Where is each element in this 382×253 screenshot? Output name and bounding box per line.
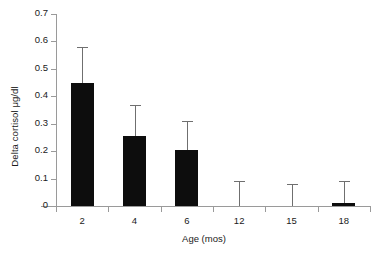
y-axis-tick-label: 0.7 xyxy=(35,7,48,18)
x-axis-tick-mark xyxy=(213,206,214,212)
y-axis-tick-mark xyxy=(51,69,56,70)
error-bar-cap xyxy=(339,181,350,182)
y-axis-tick-label: 0 xyxy=(43,199,48,210)
x-axis-tick-mark xyxy=(56,206,57,212)
y-axis-title-container: Delta cortisol μg/dl xyxy=(6,0,22,253)
x-axis-tick-label: 4 xyxy=(132,215,137,226)
error-bar-stem xyxy=(292,184,293,206)
error-bar-cap xyxy=(182,121,193,122)
x-axis-tick-label: 18 xyxy=(339,215,350,226)
x-axis-tick-mark xyxy=(265,206,266,212)
error-bar-stem xyxy=(239,181,240,206)
x-axis-tick-label: 2 xyxy=(80,215,85,226)
y-axis-tick-mark xyxy=(51,96,56,97)
x-axis-title: Age (mos) xyxy=(0,233,382,244)
error-bar-stem xyxy=(82,47,83,83)
y-axis-tick-mark xyxy=(51,151,56,152)
y-axis-tick-label: 0.5 xyxy=(35,62,48,73)
error-bar-cap xyxy=(77,47,88,48)
x-axis-tick-mark xyxy=(370,206,371,212)
y-axis-tick-label: 0.2 xyxy=(35,144,48,155)
error-bar-stem xyxy=(135,105,136,137)
y-axis-title: Delta cortisol μg/dl xyxy=(6,0,22,253)
x-axis-tick-label: 12 xyxy=(234,215,245,226)
x-axis-spine xyxy=(41,206,370,207)
y-axis-tick-label: 0.6 xyxy=(35,34,48,45)
error-bar-cap xyxy=(234,181,245,182)
bar xyxy=(71,83,94,206)
x-axis-tick-label: 15 xyxy=(286,215,297,226)
y-axis-tick-label: 0.4 xyxy=(35,89,48,100)
y-axis-tick-mark xyxy=(51,124,56,125)
x-axis-tick-mark xyxy=(161,206,162,212)
error-bar-stem xyxy=(344,181,345,202)
bar xyxy=(332,203,355,206)
x-axis-tick-mark xyxy=(318,206,319,212)
y-axis-tick-label: 0.1 xyxy=(35,172,48,183)
y-axis-tick-mark xyxy=(51,41,56,42)
x-axis-tick-mark xyxy=(108,206,109,212)
error-bar-cap xyxy=(130,105,141,106)
y-axis-tick-label: 0.3 xyxy=(35,117,48,128)
x-axis-tick-label: 6 xyxy=(184,215,189,226)
y-axis-tick-mark xyxy=(51,14,56,15)
error-bar-stem xyxy=(187,121,188,150)
bar xyxy=(175,150,198,206)
plot-area: 00.10.20.30.40.50.60.7 xyxy=(56,14,370,206)
y-axis-tick-mark xyxy=(51,179,56,180)
bar xyxy=(123,136,146,206)
error-bar-cap xyxy=(287,184,298,185)
bar-chart-figure: Delta cortisol μg/dl 00.10.20.30.40.50.6… xyxy=(0,0,382,253)
